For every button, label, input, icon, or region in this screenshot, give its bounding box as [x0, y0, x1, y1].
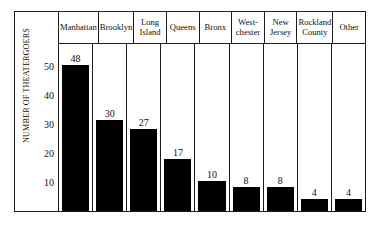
- y-tick-10: 10: [32, 178, 54, 188]
- bar-value-manhattan: 48: [59, 54, 92, 64]
- bar-value-long-island: 27: [127, 118, 160, 128]
- category-header-rockland-county: Rockland County: [297, 12, 333, 43]
- category-label-line: Jersey: [270, 27, 291, 37]
- bar-column-long-island: 27: [127, 44, 161, 211]
- y-tick-20: 20: [32, 149, 54, 159]
- bar-value-bronx: 10: [195, 170, 228, 180]
- bar-other: [335, 199, 362, 211]
- category-label-line: Queens: [170, 23, 196, 32]
- bar-value-westchester: 8: [230, 176, 263, 186]
- bar-bronx: [198, 181, 225, 211]
- y-axis-title: NUMBER OF THEATERGOERS: [22, 13, 31, 158]
- bar-value-brooklyn: 30: [93, 109, 126, 119]
- bar-value-rockland-county: 4: [298, 188, 331, 198]
- bar-column-brooklyn: 30: [93, 44, 127, 211]
- bar-brooklyn: [96, 120, 123, 211]
- category-header-long-island: Long Island: [134, 12, 167, 43]
- bar-column-new-jersey: 8: [264, 44, 298, 211]
- bar-queens: [164, 159, 191, 211]
- category-label-block: New Jersey: [270, 18, 291, 37]
- plot-area: 48 30 27 17 10 8: [59, 44, 365, 211]
- category-label-line: Other: [339, 23, 359, 32]
- category-label-line: Island: [140, 27, 161, 37]
- y-tick-50: 50: [32, 62, 54, 72]
- category-label-block: West- chester: [236, 18, 260, 37]
- category-label-block: Rockland County: [298, 18, 331, 37]
- category-header-bronx: Bronx: [200, 12, 233, 43]
- category-label-block: Long Island: [140, 18, 161, 37]
- bar-manhattan: [62, 65, 89, 211]
- category-label-line: Bronx: [205, 23, 226, 32]
- y-axis-region: NUMBER OF THEATERGOERS 50 40 30 20 10: [15, 12, 59, 211]
- category-label-line: Brooklyn: [100, 23, 132, 32]
- bar-value-queens: 17: [161, 148, 194, 158]
- category-header-brooklyn: Brooklyn: [99, 12, 134, 43]
- y-tick-30: 30: [32, 120, 54, 130]
- bar-rockland-county: [301, 199, 328, 211]
- bar-column-westchester: 8: [230, 44, 264, 211]
- category-header-queens: Queens: [167, 12, 200, 43]
- bar-long-island: [130, 129, 157, 211]
- category-label-line: Manhattan: [60, 23, 97, 32]
- bar-value-other: 4: [332, 188, 365, 198]
- bar-westchester: [233, 187, 260, 211]
- category-header-manhattan: Manhattan: [59, 12, 99, 43]
- category-header-westchester: West- chester: [232, 12, 265, 43]
- bar-column-rockland-county: 4: [298, 44, 332, 211]
- y-tick-40: 40: [32, 91, 54, 101]
- chart-frame: NUMBER OF THEATERGOERS 50 40 30 20 10 Ma…: [14, 11, 366, 212]
- category-label-line: chester: [236, 27, 260, 37]
- category-header-other: Other: [333, 12, 365, 43]
- category-header-row: Manhattan Brooklyn Long Island Queens Br…: [59, 12, 365, 44]
- bar-chart: NUMBER OF THEATERGOERS 50 40 30 20 10 Ma…: [0, 0, 379, 234]
- bar-column-bronx: 10: [195, 44, 229, 211]
- bar-new-jersey: [267, 187, 294, 211]
- bar-column-queens: 17: [161, 44, 195, 211]
- category-header-new-jersey: New Jersey: [265, 12, 298, 43]
- bar-value-new-jersey: 8: [264, 176, 297, 186]
- bar-column-other: 4: [332, 44, 365, 211]
- category-label-line: County: [302, 27, 327, 37]
- bar-column-manhattan: 48: [59, 44, 93, 211]
